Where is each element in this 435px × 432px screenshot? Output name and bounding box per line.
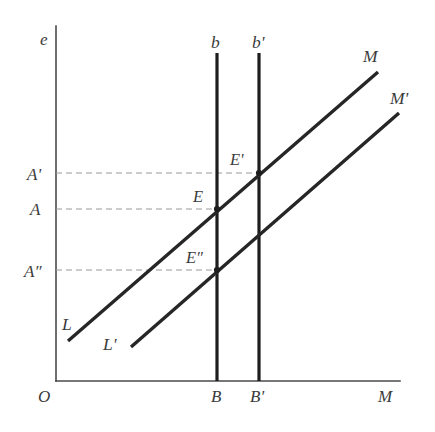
point-e: [214, 206, 220, 212]
curve-label-b-prime: b': [252, 32, 265, 52]
curve-label-m: M: [362, 46, 379, 66]
x-axis-label: M: [377, 387, 393, 406]
curve-lm-prime: [131, 113, 399, 347]
curve-label-m-prime: M': [389, 88, 409, 108]
y-tick-label-a-prime: A': [26, 165, 41, 184]
curve-label-l: L: [61, 314, 72, 334]
origin-label: O: [38, 387, 50, 406]
equilibrium-points-group: [214, 170, 262, 273]
y-tick-label-a-double-prime: A″: [23, 262, 42, 281]
curve-label-b: b: [211, 32, 220, 52]
guide-lines-group: [56, 173, 259, 270]
y-tick-label-a: A: [29, 200, 41, 219]
point-label-e-double-prime: E″: [185, 248, 204, 267]
vertical-lines-group: [217, 53, 259, 381]
x-tick-label-b-prime: B': [250, 387, 264, 406]
point-label-e-prime: E': [229, 150, 244, 169]
point-label-e: E: [192, 187, 203, 206]
x-tick-label-b: B: [211, 387, 222, 406]
lm-diagram: e O M A' A A″ B B' b b' M M' L L' E' E E…: [0, 0, 435, 432]
curve-label-l-prime: L': [102, 334, 117, 354]
point-e-double-prime: [214, 267, 220, 273]
y-axis-label: e: [40, 30, 48, 49]
figure-canvas: e O M A' A A″ B B' b b' M M' L L' E' E E…: [0, 0, 435, 432]
curve-lm: [68, 72, 378, 341]
point-e-prime: [256, 170, 262, 176]
